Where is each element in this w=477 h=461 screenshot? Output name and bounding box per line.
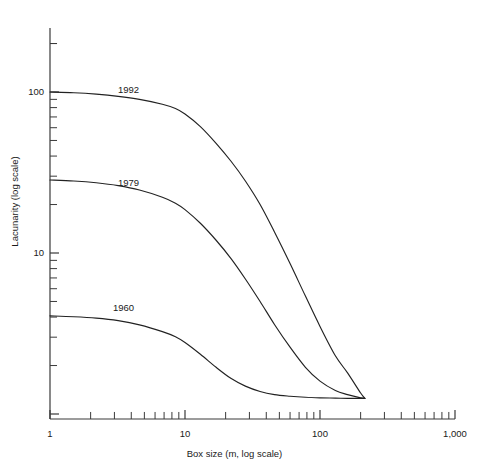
x-tick-label: 1 — [47, 428, 52, 439]
chart-svg: 101001101001,000 199219791960 Box size (… — [0, 0, 477, 461]
x-tick-label: 10 — [180, 428, 191, 439]
y-tick-label: 10 — [33, 247, 44, 258]
y-axis-title: Lacunarity (log scale) — [9, 156, 20, 246]
series-line-1992 — [50, 92, 365, 398]
ticks-group — [50, 44, 455, 419]
tick-labels-group: 101001101001,000 — [28, 86, 467, 439]
series-label-1960: 1960 — [113, 302, 134, 313]
series-label-1992: 1992 — [118, 84, 139, 95]
series-label-1979: 1979 — [118, 177, 139, 188]
series-line-1960 — [50, 316, 365, 399]
axes-group — [50, 28, 455, 419]
x-tick-label: 1,000 — [443, 428, 467, 439]
x-tick-label: 100 — [312, 428, 328, 439]
curves-group — [50, 92, 365, 398]
x-axis-title: Box size (m, log scale) — [187, 448, 283, 459]
series-labels-group: 199219791960 — [113, 84, 139, 313]
lacunarity-chart: 101001101001,000 199219791960 Box size (… — [0, 0, 477, 461]
series-line-1979 — [50, 180, 365, 398]
y-tick-label: 100 — [28, 86, 44, 97]
